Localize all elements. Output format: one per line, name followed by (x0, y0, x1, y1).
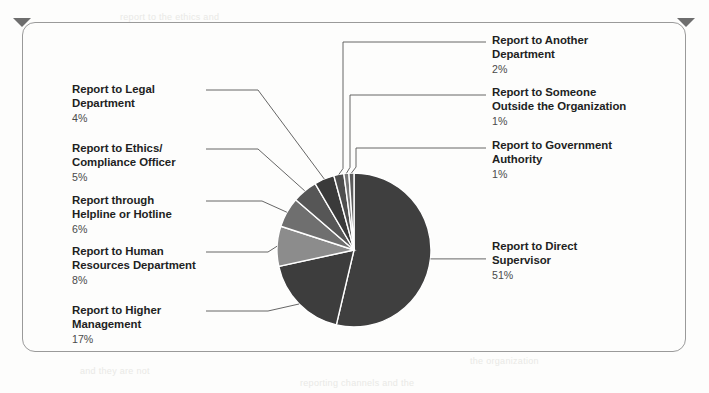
label-higher-management-percent: 17% (72, 333, 262, 347)
page-canvas: report to the ethics and the organizatio… (0, 0, 709, 393)
label-ethics-compliance-officer-line1: Report to Ethics/ (72, 142, 262, 156)
label-government-authority-percent: 1% (492, 168, 697, 182)
label-direct-supervisor-percent: 51% (492, 269, 682, 283)
label-another-department-percent: 2% (492, 63, 692, 77)
label-someone-outside-organization-percent: 1% (492, 115, 707, 129)
label-helpline-hotline-percent: 6% (72, 223, 262, 237)
label-government-authority-line1: Report to Government (492, 139, 697, 153)
label-direct-supervisor: Report to Direct Supervisor 51% (492, 240, 682, 283)
label-someone-outside-organization-line1: Report to Someone (492, 86, 707, 100)
label-higher-management-line1: Report to Higher (72, 304, 262, 318)
label-human-resources-percent: 8% (72, 274, 272, 288)
label-helpline-hotline: Report through Helpline or Hotline 6% (72, 194, 262, 237)
leader-government-authority (351, 148, 486, 173)
label-legal-department-line2: Department (72, 97, 252, 111)
label-someone-outside-organization: Report to Someone Outside the Organizati… (492, 86, 707, 129)
label-helpline-hotline-line1: Report through (72, 194, 262, 208)
label-higher-management-line2: Management (72, 318, 262, 332)
label-higher-management: Report to Higher Management 17% (72, 304, 262, 347)
label-direct-supervisor-line1: Report to Direct (492, 240, 682, 254)
label-human-resources: Report to Human Resources Department 8% (72, 245, 272, 288)
leader-another-department (339, 42, 486, 175)
label-legal-department-line1: Report to Legal (72, 83, 252, 97)
label-human-resources-line2: Resources Department (72, 259, 272, 273)
label-another-department-line2: Department (492, 48, 692, 62)
label-ethics-compliance-officer: Report to Ethics/ Compliance Officer 5% (72, 142, 262, 185)
label-government-authority-line2: Authority (492, 153, 697, 167)
label-legal-department: Report to Legal Department 4% (72, 83, 252, 126)
label-another-department-line1: Report to Another (492, 34, 692, 48)
leader-someone-outside-organization (346, 95, 486, 173)
label-ethics-compliance-officer-percent: 5% (72, 171, 262, 185)
label-ethics-compliance-officer-line2: Compliance Officer (72, 156, 262, 170)
label-government-authority: Report to Government Authority 1% (492, 139, 697, 182)
label-legal-department-percent: 4% (72, 112, 252, 126)
label-another-department: Report to Another Department 2% (492, 34, 692, 77)
label-helpline-hotline-line2: Helpline or Hotline (72, 208, 262, 222)
label-someone-outside-organization-line2: Outside the Organization (492, 100, 707, 114)
label-human-resources-line1: Report to Human (72, 245, 272, 259)
pie-slices (277, 173, 431, 327)
label-direct-supervisor-line2: Supervisor (492, 254, 682, 268)
